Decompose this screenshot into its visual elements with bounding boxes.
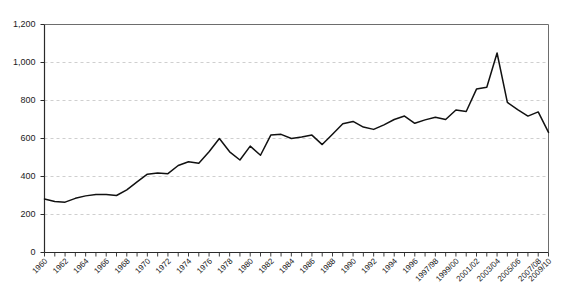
y-tick-label-1000: 1,000 [13, 57, 36, 67]
chart-container: 02004006008001,0001,200 1960196219641966… [0, 0, 572, 296]
x-axis-tick-marks [45, 253, 549, 257]
data-series-line [45, 53, 549, 202]
y-axis-tick-labels: 02004006008001,0001,200 [13, 19, 36, 257]
x-tick-label-1988: 1988 [318, 256, 337, 275]
x-tick-label-1984: 1984 [277, 256, 296, 275]
x-tick-label-1992: 1992 [360, 256, 379, 275]
x-tick-label-1994: 1994 [380, 256, 399, 275]
x-tick-label-1962: 1962 [51, 256, 70, 275]
x-tick-label-1978: 1978 [216, 256, 235, 275]
line-chart: 02004006008001,0001,200 1960196219641966… [0, 0, 572, 296]
x-tick-label-1990: 1990 [339, 256, 358, 275]
x-tick-label-1972: 1972 [154, 256, 173, 275]
y-tick-label-600: 600 [20, 133, 35, 143]
y-tick-label-800: 800 [20, 95, 35, 105]
x-tick-label-1982: 1982 [257, 256, 276, 275]
x-tick-label-1968: 1968 [113, 256, 132, 275]
y-tick-label-200: 200 [20, 209, 35, 219]
x-tick-label-1986: 1986 [298, 256, 317, 275]
x-tick-label-1974: 1974 [174, 256, 193, 275]
gridlines [45, 25, 549, 215]
x-tick-label-1966: 1966 [92, 256, 111, 275]
x-axis-tick-labels: 1960196219641966196819701972197419761978… [30, 256, 553, 283]
x-tick-label-1980: 1980 [236, 256, 255, 275]
x-tick-label-1970: 1970 [133, 256, 152, 275]
y-tick-label-400: 400 [20, 171, 35, 181]
x-tick-label-1964: 1964 [72, 256, 91, 275]
y-tick-label-1200: 1,200 [13, 19, 36, 29]
y-tick-label-0: 0 [30, 247, 35, 257]
x-tick-label-1960: 1960 [30, 256, 49, 275]
x-tick-label-1976: 1976 [195, 256, 214, 275]
